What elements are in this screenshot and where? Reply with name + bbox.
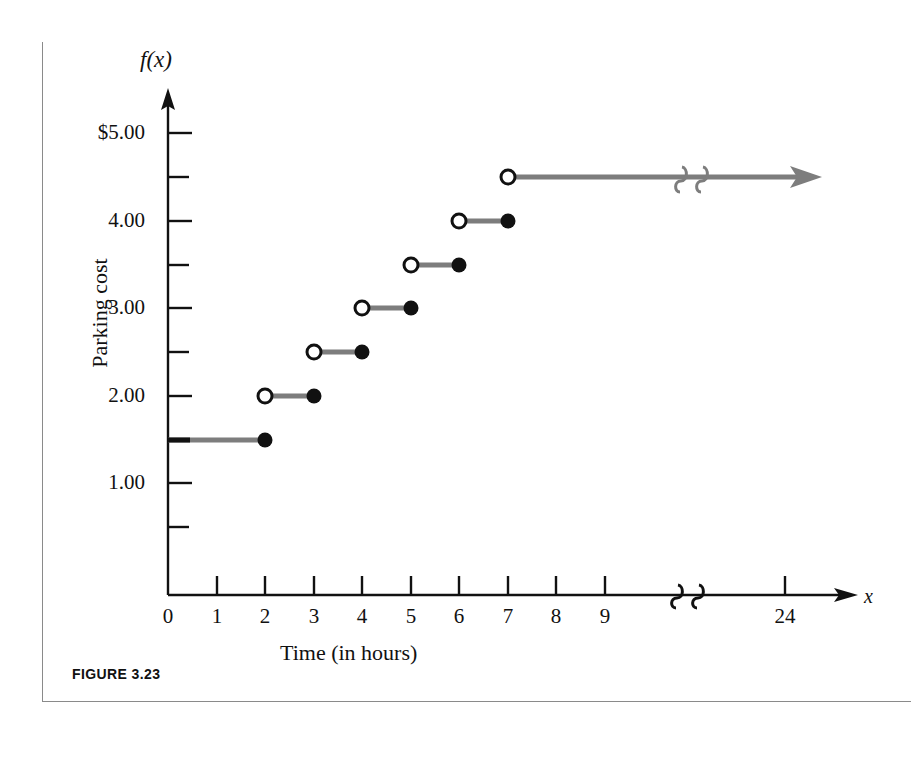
x-tick-label-1: 1: [197, 604, 237, 629]
y-axis-symbol-label: f(x): [140, 47, 172, 73]
x-axis-title: Time (in hours): [280, 640, 417, 666]
figure-caption: FIGURE 3.23: [72, 666, 160, 682]
x-tick-label-4: 4: [342, 604, 382, 629]
chart-canvas: [0, 0, 911, 759]
closed-dot-3h: [307, 389, 322, 404]
x-tick-label-3: 3: [294, 604, 334, 629]
open-dot-3h: [307, 345, 321, 359]
y-tick-marks: [168, 133, 192, 527]
open-dot-2h: [258, 389, 272, 403]
x-axis: [168, 588, 858, 602]
y-axis-title: Parking cost: [87, 203, 113, 423]
y-axis: [161, 88, 175, 595]
x-tick-label-8: 8: [536, 604, 576, 629]
x-tick-label-0: 0: [148, 604, 188, 629]
x-tick-label-2: 2: [245, 604, 285, 629]
closed-dot-5h: [404, 301, 419, 316]
open-dot-4h: [355, 301, 369, 315]
open-dot-7h: [501, 170, 515, 184]
y-tick-label-5: $5.00: [55, 120, 145, 145]
open-dot-5h: [404, 258, 418, 272]
closed-dot-2h: [258, 433, 273, 448]
y-tick-label-1: 1.00: [55, 470, 145, 495]
x-tick-label-7: 7: [488, 604, 528, 629]
x-tick-label-5: 5: [391, 604, 431, 629]
closed-dot-7h: [501, 214, 516, 229]
x-tick-label-24: 24: [765, 604, 805, 629]
x-axis-break-icon: [672, 585, 704, 608]
closed-dot-4h: [355, 345, 370, 360]
x-tick-label-6: 6: [439, 604, 479, 629]
closed-dot-6h: [452, 258, 467, 273]
open-dot-6h: [452, 214, 466, 228]
x-axis-symbol-label: x: [864, 585, 873, 608]
x-tick-label-9: 9: [585, 604, 625, 629]
step-function-chart: $5.00 4.00 3.00 2.00 1.00 0 1 2 3 4 5 6 …: [0, 0, 911, 759]
